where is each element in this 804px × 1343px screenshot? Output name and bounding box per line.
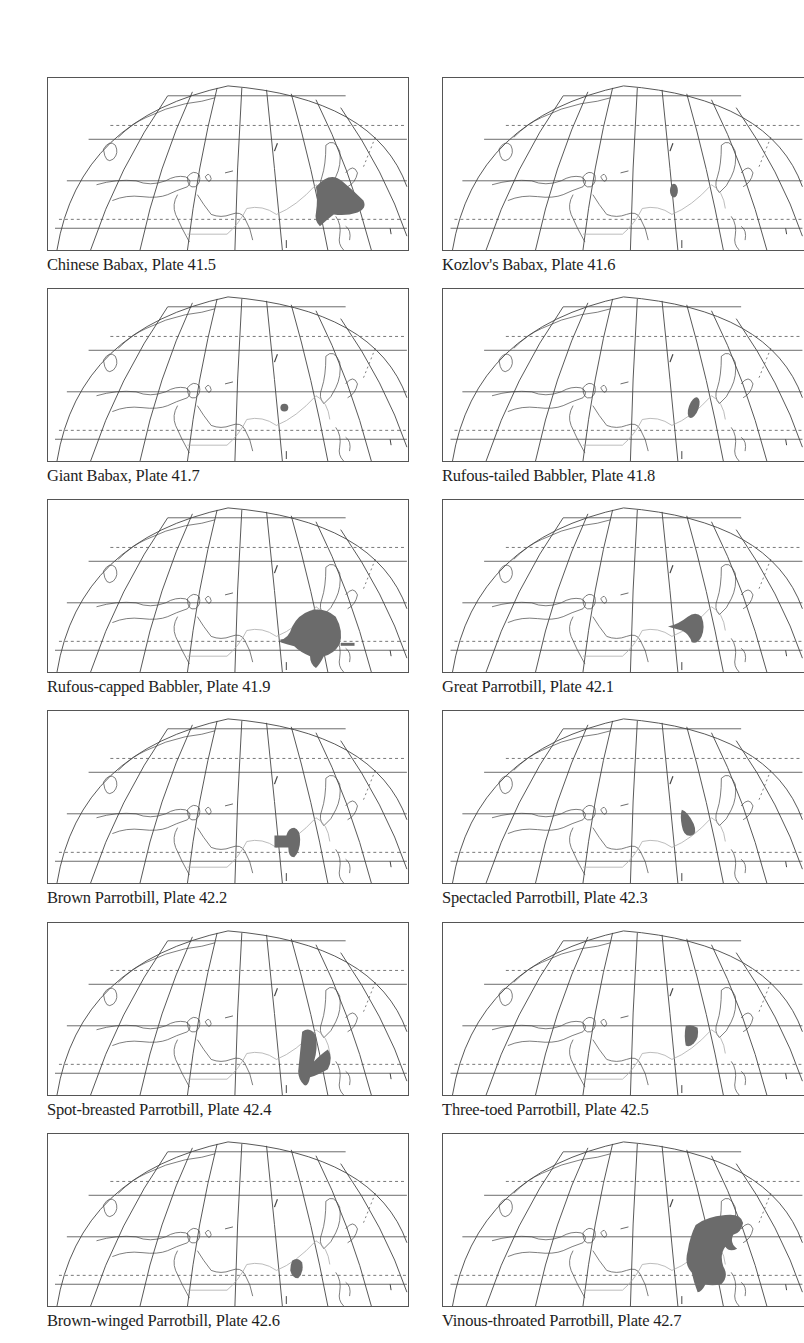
species-range-area: [274, 828, 300, 858]
range-map: [47, 288, 409, 462]
globe-map-icon: [48, 500, 408, 672]
globe-map-icon: [443, 500, 804, 672]
globe-map-icon: [48, 923, 408, 1095]
species-range-area: [315, 177, 364, 226]
range-map: [47, 922, 409, 1096]
map-caption: Great Parrotbill, Plate 42.1: [442, 677, 614, 697]
range-map: [442, 77, 804, 251]
map-caption: Kozlov's Babax, Plate 41.6: [442, 255, 615, 275]
globe-map-icon: [48, 1134, 408, 1306]
range-map: [442, 499, 804, 673]
map-caption: Brown Parrotbill, Plate 42.2: [47, 888, 227, 908]
globe-map-icon: [48, 78, 408, 250]
map-caption: Spot-breasted Parrotbill, Plate 42.4: [47, 1100, 271, 1120]
globe-map-icon: [443, 289, 804, 461]
map-caption: Brown-winged Parrotbill, Plate 42.6: [47, 1311, 280, 1331]
species-range-area: [280, 404, 288, 412]
globe-map-icon: [443, 711, 804, 883]
range-map: [442, 922, 804, 1096]
map-caption: Rufous-tailed Babbler, Plate 41.8: [442, 466, 655, 486]
range-map: [47, 77, 409, 251]
species-range-area: [685, 1025, 698, 1046]
globe-map-icon: [48, 711, 408, 883]
map-caption: Three-toed Parrotbill, Plate 42.5: [442, 1100, 648, 1120]
range-map: [47, 499, 409, 673]
map-caption: Chinese Babax, Plate 41.5: [47, 255, 216, 275]
range-map: [442, 288, 804, 462]
species-range-area: [280, 610, 341, 668]
map-caption: Giant Babax, Plate 41.7: [47, 466, 200, 486]
map-caption: Vinous-throated Parrotbill, Plate 42.7: [442, 1311, 681, 1331]
globe-map-icon: [48, 289, 408, 461]
map-caption: Spectacled Parrotbill, Plate 42.3: [442, 888, 648, 908]
range-map: [47, 1133, 409, 1307]
globe-map-icon: [443, 923, 804, 1095]
species-range-area: [298, 1030, 331, 1086]
map-caption: Rufous-capped Babbler, Plate 41.9: [47, 677, 270, 697]
globe-map-icon: [443, 78, 804, 250]
globe-map-icon: [443, 1134, 804, 1306]
range-map: [442, 1133, 804, 1307]
species-range-area: [686, 1215, 743, 1292]
range-map: [47, 710, 409, 884]
species-range-area: [670, 184, 678, 198]
range-map: [442, 710, 804, 884]
